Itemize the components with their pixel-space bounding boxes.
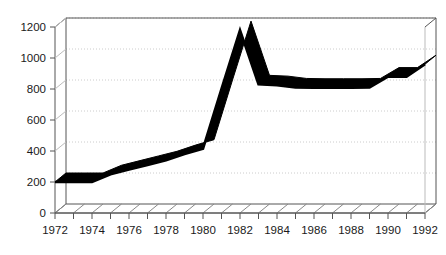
y-tick-depth-connector (55, 49, 66, 58)
y-axis-tick-label: 800 (27, 83, 46, 95)
y-axis-tick-label: 0 (40, 207, 46, 219)
y-tick-depth-connector (55, 80, 66, 89)
line-chart: 0200400600800100012001972197419761978198… (0, 0, 446, 255)
y-axis-tick-label: 400 (27, 145, 46, 157)
y-axis-tick-label: 600 (27, 114, 46, 126)
x-axis-tick-label: 1986 (301, 224, 327, 236)
x-axis-tick-label: 1978 (153, 224, 179, 236)
y-axis-tick-label: 1000 (20, 52, 46, 64)
chart-canvas: 0200400600800100012001972197419761978198… (0, 0, 446, 255)
x-axis-tick-label: 1984 (264, 224, 290, 236)
y-tick-depth-connector (55, 142, 66, 151)
y-axis-tick-label: 200 (27, 176, 46, 188)
y-tick-depth-connector (55, 111, 66, 120)
data-series (55, 21, 436, 182)
x-axis-tick-label: 1976 (116, 224, 142, 236)
x-axis-tick-label: 1980 (190, 224, 216, 236)
top-right-connector (425, 18, 436, 27)
y-tick-depth-connector (55, 18, 66, 27)
x-axis-tick-label: 1974 (79, 224, 105, 236)
chart-floor (55, 204, 436, 213)
x-axis-tick-label: 1982 (227, 224, 253, 236)
x-axis-tick-label: 1988 (338, 224, 364, 236)
x-axis-tick-label: 1990 (375, 224, 401, 236)
x-axis-tick-label: 1972 (42, 224, 68, 236)
x-axis-tick-label: 1992 (412, 224, 438, 236)
y-axis-tick-label: 1200 (20, 21, 46, 33)
